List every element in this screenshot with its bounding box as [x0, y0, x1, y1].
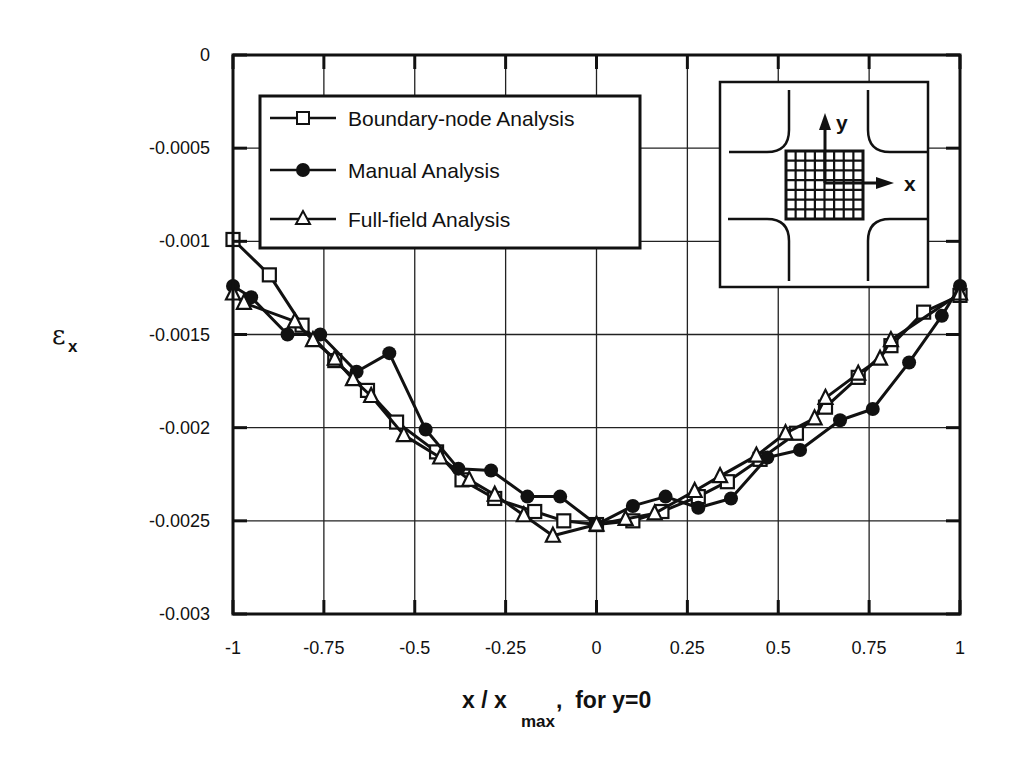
x-axis-title-suffix: , for y=0 [556, 687, 651, 713]
x-tick-label: 0.5 [766, 638, 791, 658]
filled-circle-marker-icon [382, 346, 396, 360]
filled-circle-marker-icon [626, 499, 640, 513]
legend: Boundary-node Analysis Manual Analysis F… [260, 96, 640, 248]
x-tick-label: 0.75 [852, 638, 887, 658]
inset-y-label: y [836, 111, 848, 134]
filled-circle-marker-icon [296, 163, 310, 177]
open-square-marker-icon [297, 112, 309, 124]
inset-x-label: x [904, 172, 916, 195]
x-tick-label: 1 [955, 638, 965, 658]
y-tick-label: -0.0005 [149, 138, 210, 158]
filled-circle-marker-icon [484, 464, 498, 478]
filled-circle-marker-icon [902, 355, 916, 369]
open-square-marker-icon [557, 514, 570, 527]
y-tick-label: 0 [200, 45, 210, 65]
filled-circle-marker-icon [419, 423, 433, 437]
strain-chart: 0-0.0005-0.001-0.0015-0.002-0.0025-0.003… [0, 0, 1020, 775]
x-tick-label: 0 [591, 638, 601, 658]
filled-circle-marker-icon [553, 490, 567, 504]
y-axis-title-sub: x [68, 337, 78, 356]
filled-circle-marker-icon [691, 501, 705, 515]
y-axis-title-main: ε [52, 320, 65, 350]
y-tick-label: -0.002 [159, 418, 210, 438]
x-tick-label: -0.25 [485, 638, 526, 658]
x-tick-label: -1 [225, 638, 241, 658]
filled-circle-marker-icon [935, 309, 949, 323]
filled-circle-marker-icon [659, 490, 673, 504]
filled-circle-marker-icon [833, 413, 847, 427]
x-axis-title-sub: max [521, 712, 556, 731]
y-tick-label: -0.003 [159, 604, 210, 624]
specimen-inset: y x [720, 82, 928, 287]
legend-label: Full-field Analysis [348, 208, 510, 231]
open-triangle-marker-icon [819, 390, 833, 404]
y-tick-label: -0.0015 [149, 325, 210, 345]
y-tick-label: -0.0025 [149, 511, 210, 531]
y-axis-title: ε x [52, 320, 78, 356]
x-tick-label: 0.25 [670, 638, 705, 658]
open-square-marker-icon [263, 268, 276, 281]
filled-circle-marker-icon [520, 490, 534, 504]
filled-circle-marker-icon [724, 491, 738, 505]
filled-circle-marker-icon [793, 443, 807, 457]
y-tick-label: -0.001 [159, 231, 210, 251]
x-tick-label: -0.5 [399, 638, 430, 658]
filled-circle-marker-icon [281, 328, 295, 342]
legend-label: Manual Analysis [348, 159, 500, 182]
x-axis-title-main: x / x [462, 687, 507, 713]
open-square-marker-icon [528, 505, 541, 518]
x-tick-label: -0.75 [303, 638, 344, 658]
filled-circle-marker-icon [866, 402, 880, 416]
x-axis-title: x / x max , for y=0 [462, 687, 651, 731]
legend-label: Boundary-node Analysis [348, 107, 574, 130]
